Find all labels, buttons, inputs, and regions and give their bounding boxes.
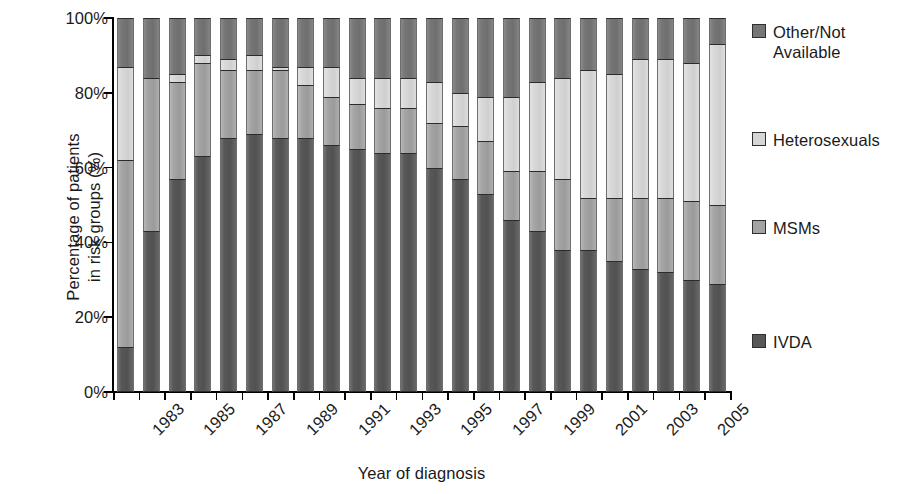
bar-segment-other-not-available[interactable] — [272, 18, 289, 67]
bar-2002[interactable] — [606, 18, 623, 392]
bar-segment-ivda[interactable] — [606, 261, 623, 392]
bar-segment-heterosexuals[interactable] — [554, 78, 571, 179]
bar-segment-msms[interactable] — [657, 198, 674, 273]
bar-segment-msms[interactable] — [143, 78, 160, 231]
legend-item-other-not-available[interactable]: Other/Not Available — [752, 22, 845, 62]
bar-segment-heterosexuals[interactable] — [426, 82, 443, 123]
bar-segment-ivda[interactable] — [426, 168, 443, 392]
bar-segment-msms[interactable] — [503, 171, 520, 220]
bar-2003[interactable] — [632, 18, 649, 392]
bar-segment-heterosexuals[interactable] — [220, 59, 237, 70]
bar-segment-other-not-available[interactable] — [606, 18, 623, 74]
bar-segment-heterosexuals[interactable] — [632, 59, 649, 197]
bar-segment-other-not-available[interactable] — [657, 18, 674, 59]
bar-segment-msms[interactable] — [606, 198, 623, 262]
bar-segment-heterosexuals[interactable] — [323, 67, 340, 97]
bar-segment-other-not-available[interactable] — [400, 18, 417, 78]
bar-segment-other-not-available[interactable] — [580, 18, 597, 70]
bar-segment-ivda[interactable] — [529, 231, 546, 392]
bar-segment-ivda[interactable] — [683, 280, 700, 392]
bar-segment-other-not-available[interactable] — [220, 18, 237, 59]
bar-segment-other-not-available[interactable] — [529, 18, 546, 82]
legend-item-ivda[interactable]: IVDA — [752, 332, 812, 352]
bar-segment-heterosexuals[interactable] — [657, 59, 674, 197]
bar-segment-heterosexuals[interactable] — [477, 97, 494, 142]
bar-segment-other-not-available[interactable] — [683, 18, 700, 63]
bar-segment-other-not-available[interactable] — [426, 18, 443, 82]
bar-segment-other-not-available[interactable] — [452, 18, 469, 93]
bar-segment-ivda[interactable] — [452, 179, 469, 392]
bar-segment-other-not-available[interactable] — [709, 18, 726, 44]
bar-segment-ivda[interactable] — [477, 194, 494, 392]
bar-1994[interactable] — [400, 18, 417, 392]
bar-segment-ivda[interactable] — [400, 153, 417, 392]
bar-1988[interactable] — [246, 18, 263, 392]
bar-segment-other-not-available[interactable] — [374, 18, 391, 78]
bar-segment-ivda[interactable] — [580, 250, 597, 392]
bar-segment-ivda[interactable] — [194, 156, 211, 392]
bar-segment-other-not-available[interactable] — [169, 18, 186, 74]
bar-1996[interactable] — [452, 18, 469, 392]
bar-segment-other-not-available[interactable] — [194, 18, 211, 55]
bar-1984[interactable] — [143, 18, 160, 392]
bar-segment-heterosexuals[interactable] — [169, 74, 186, 81]
bar-segment-other-not-available[interactable] — [477, 18, 494, 97]
bar-segment-other-not-available[interactable] — [246, 18, 263, 55]
bar-segment-msms[interactable] — [323, 97, 340, 146]
legend-item-msms[interactable]: MSMs — [752, 218, 820, 238]
bar-segment-msms[interactable] — [117, 160, 134, 347]
bar-segment-ivda[interactable] — [374, 153, 391, 392]
bar-segment-msms[interactable] — [426, 123, 443, 168]
bar-1998[interactable] — [503, 18, 520, 392]
bar-segment-heterosexuals[interactable] — [683, 63, 700, 201]
bar-segment-ivda[interactable] — [323, 145, 340, 392]
bar-1991[interactable] — [323, 18, 340, 392]
bar-segment-heterosexuals[interactable] — [503, 97, 520, 172]
bar-segment-ivda[interactable] — [169, 179, 186, 392]
bar-2001[interactable] — [580, 18, 597, 392]
bar-segment-msms[interactable] — [297, 85, 314, 137]
bar-1993[interactable] — [374, 18, 391, 392]
bar-segment-msms[interactable] — [220, 70, 237, 137]
bar-segment-other-not-available[interactable] — [323, 18, 340, 67]
bar-1997[interactable] — [477, 18, 494, 392]
bar-segment-msms[interactable] — [272, 70, 289, 137]
bar-segment-heterosexuals[interactable] — [709, 44, 726, 205]
bar-2004[interactable] — [657, 18, 674, 392]
bar-segment-other-not-available[interactable] — [143, 18, 160, 78]
bar-1983[interactable] — [117, 18, 134, 392]
bar-segment-ivda[interactable] — [297, 138, 314, 392]
bar-segment-heterosexuals[interactable] — [297, 67, 314, 86]
bar-segment-heterosexuals[interactable] — [400, 78, 417, 108]
bar-segment-heterosexuals[interactable] — [272, 67, 289, 71]
bar-segment-heterosexuals[interactable] — [246, 55, 263, 70]
bar-1985[interactable] — [169, 18, 186, 392]
bar-segment-other-not-available[interactable] — [349, 18, 366, 78]
bar-segment-other-not-available[interactable] — [632, 18, 649, 59]
bar-segment-ivda[interactable] — [272, 138, 289, 392]
bar-segment-msms[interactable] — [580, 198, 597, 250]
bar-1999[interactable] — [529, 18, 546, 392]
bar-segment-ivda[interactable] — [503, 220, 520, 392]
bar-segment-msms[interactable] — [683, 201, 700, 280]
bar-segment-heterosexuals[interactable] — [606, 74, 623, 197]
bar-segment-msms[interactable] — [400, 108, 417, 153]
bar-segment-ivda[interactable] — [554, 250, 571, 392]
bar-segment-ivda[interactable] — [709, 284, 726, 392]
bar-segment-ivda[interactable] — [117, 347, 134, 392]
bar-1995[interactable] — [426, 18, 443, 392]
bar-segment-other-not-available[interactable] — [297, 18, 314, 67]
bar-segment-ivda[interactable] — [143, 231, 160, 392]
bar-segment-other-not-available[interactable] — [554, 18, 571, 78]
bar-segment-heterosexuals[interactable] — [194, 55, 211, 62]
bar-segment-msms[interactable] — [709, 205, 726, 284]
bar-1987[interactable] — [220, 18, 237, 392]
bar-1990[interactable] — [297, 18, 314, 392]
bar-1992[interactable] — [349, 18, 366, 392]
bar-segment-heterosexuals[interactable] — [374, 78, 391, 108]
bar-segment-msms[interactable] — [194, 63, 211, 157]
bar-segment-msms[interactable] — [374, 108, 391, 153]
bar-segment-ivda[interactable] — [349, 149, 366, 392]
bar-segment-msms[interactable] — [632, 198, 649, 269]
bar-segment-msms[interactable] — [529, 171, 546, 231]
